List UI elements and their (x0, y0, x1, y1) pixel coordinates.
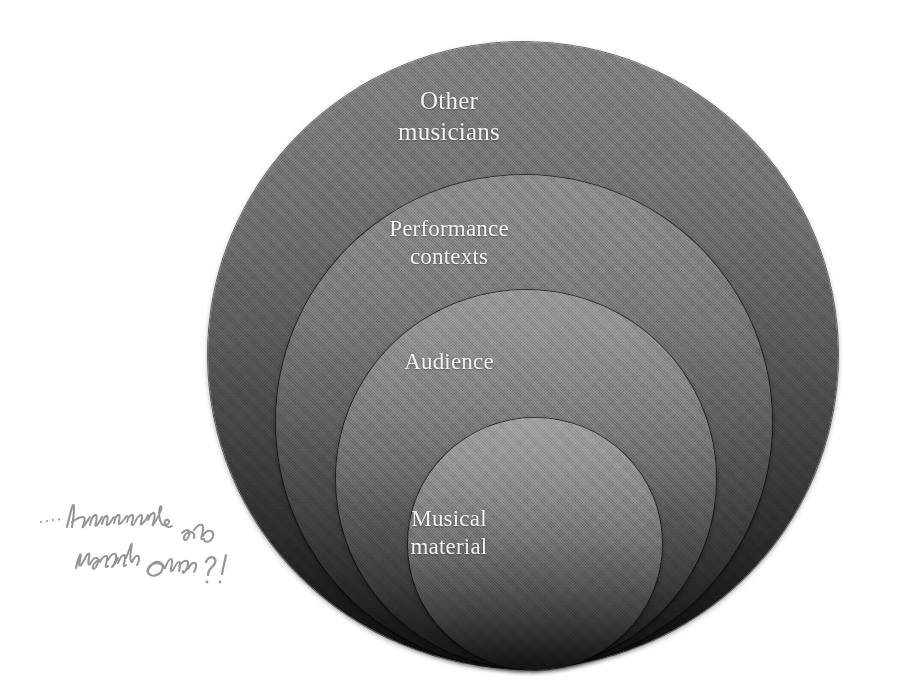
nested-circles-diagram: Other musicians Performance contexts Aud… (0, 0, 898, 694)
handwritten-annotation: ... instruments also material audio ? ! (36, 500, 236, 596)
circle-musical-material (408, 418, 662, 670)
handwritten-annotation-ink (36, 500, 236, 596)
